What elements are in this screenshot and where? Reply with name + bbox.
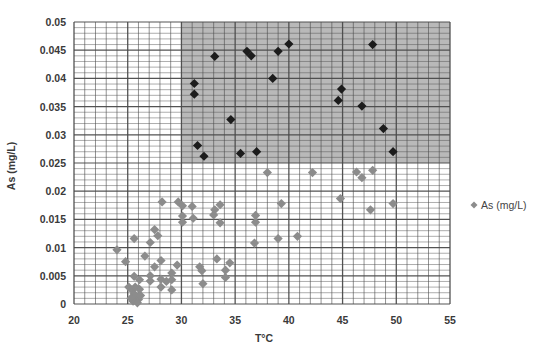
x-tick-label: 45 bbox=[337, 314, 349, 326]
y-tick-label: 0.045 bbox=[40, 44, 66, 56]
x-tick-label: 30 bbox=[176, 314, 188, 326]
y-tick-label: 0.03 bbox=[46, 129, 67, 141]
y-tick-label: 0.015 bbox=[40, 213, 66, 225]
highlight-region bbox=[181, 22, 450, 163]
legend-marker-icon bbox=[471, 202, 478, 209]
y-tick-label: 0.02 bbox=[46, 185, 67, 197]
legend: As (mg/L) bbox=[471, 199, 527, 211]
x-tick-label: 25 bbox=[122, 314, 134, 326]
y-tick-label: 0.04 bbox=[46, 72, 67, 84]
y-tick-label: 0.035 bbox=[40, 101, 66, 113]
x-tick-label: 55 bbox=[444, 314, 456, 326]
x-axis-label: T°C bbox=[255, 332, 274, 344]
x-tick-label: 35 bbox=[229, 314, 241, 326]
x-axis-ticks: 2025303540455055 bbox=[68, 314, 456, 326]
y-tick-label: 0.005 bbox=[40, 270, 66, 282]
legend-label: As (mg/L) bbox=[481, 199, 527, 211]
y-tick-label: 0 bbox=[60, 298, 66, 310]
y-axis-ticks: 00.0050.010.0150.020.0250.030.0350.040.0… bbox=[40, 16, 66, 310]
y-tick-label: 0.01 bbox=[46, 242, 67, 254]
scatter-chart: 00.0050.010.0150.020.0250.030.0350.040.0… bbox=[0, 0, 551, 349]
x-tick-label: 20 bbox=[68, 314, 80, 326]
y-tick-label: 0.05 bbox=[46, 16, 67, 28]
y-tick-label: 0.025 bbox=[40, 157, 66, 169]
x-tick-label: 50 bbox=[390, 314, 402, 326]
highlight-region-layer bbox=[181, 22, 450, 163]
y-axis-label: As (mg/L) bbox=[5, 142, 17, 190]
x-tick-label: 40 bbox=[283, 314, 295, 326]
